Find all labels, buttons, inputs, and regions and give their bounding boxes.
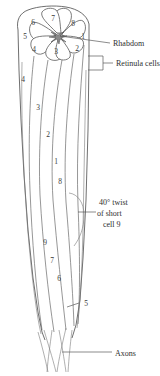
rosette-number: 5 — [23, 32, 27, 41]
body-number: 6 — [57, 274, 61, 283]
body-number: 5 — [84, 299, 88, 308]
rhabdom-label: Rhabdom — [113, 39, 145, 48]
body-number: 1 — [54, 157, 58, 166]
body-number: 9 — [43, 238, 47, 247]
ommatidium-diagram: 6 7 8 5 1 4 3 2 4 3 2 1 8 9 7 6 5 Rhabdo… — [0, 0, 160, 376]
rosette-number: 7 — [51, 14, 55, 23]
body-number: 4 — [21, 75, 25, 84]
retinula-bracket — [88, 56, 103, 70]
rosette-number: 1 — [81, 32, 85, 41]
body-number: 7 — [50, 256, 54, 265]
twist-note-line1: 40° twist — [99, 198, 129, 207]
rosette-number: 2 — [75, 44, 79, 53]
rosette-number: 8 — [71, 19, 75, 28]
body-number: 2 — [46, 130, 50, 139]
rosette-number: 4 — [32, 45, 36, 54]
rosette-number: 3 — [54, 47, 58, 56]
retinula-cell-tracks — [22, 45, 86, 334]
callout-labels: Rhabdom Retinula cells 40° twist of shor… — [97, 39, 160, 358]
twist-note-line2: of short — [97, 209, 122, 218]
rosette-number: 6 — [31, 18, 35, 27]
retinula-label: Retinula cells — [116, 59, 160, 68]
body-number: 3 — [36, 103, 40, 112]
axons-label: Axons — [115, 349, 136, 358]
twist-note-line3: cell 9 — [103, 220, 121, 229]
body-number: 8 — [58, 177, 62, 186]
